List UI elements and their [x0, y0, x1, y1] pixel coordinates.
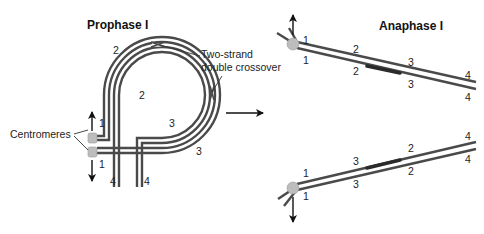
ana-bot-upper-3: 3: [353, 155, 359, 167]
ana-bot-upper-2: 2: [408, 142, 414, 154]
centromeres-leader: [74, 130, 88, 150]
ana-bot-lower-4: 4: [465, 153, 471, 165]
prophase-num-1-bottom: 1: [99, 158, 105, 170]
prophase-num-4-right: 4: [144, 175, 150, 187]
ana-top-upper-1: 1: [303, 34, 309, 46]
ana-top-lower-2: 2: [353, 65, 359, 77]
centromere-top: [287, 38, 299, 50]
ana-top-lower-3: 3: [408, 78, 414, 90]
prophase-num-2-outer: 2: [113, 44, 119, 56]
prophase-num-3-outer: 3: [196, 145, 202, 157]
meiosis-figure: Prophase I Anaphase I Centromeres Two-st…: [0, 0, 484, 234]
prophase-num-3-inner: 3: [169, 117, 175, 129]
centromere-bottom: [287, 182, 299, 194]
crossover-label-line2: double crossover: [201, 61, 281, 73]
ana-bot-lower-1: 1: [303, 190, 309, 202]
ana-bot-upper-4: 4: [465, 130, 471, 142]
centromeres-label: Centromeres: [10, 128, 71, 140]
anaphase-top-chromosome: [277, 15, 476, 89]
prophase-num-2-inner: 2: [139, 89, 145, 101]
ana-bot-upper-1: 1: [303, 167, 309, 179]
prophase-num-1-top: 1: [99, 117, 105, 129]
ana-top-lower-4: 4: [465, 91, 471, 103]
centromere-lower: [88, 147, 97, 157]
ana-bot-lower-3: 3: [353, 178, 359, 190]
anaphase-title: Anaphase I: [379, 19, 443, 33]
crossover-label-line1: Two-strand: [201, 48, 253, 60]
prophase-num-4-left: 4: [110, 175, 116, 187]
ana-top-upper-3: 3: [408, 56, 414, 68]
prophase-title: Prophase I: [87, 18, 148, 32]
ana-top-upper-2: 2: [353, 43, 359, 55]
ana-bot-lower-2: 2: [408, 165, 414, 177]
ana-top-upper-4: 4: [465, 69, 471, 81]
anaphase-bottom-chromosome: [278, 142, 476, 222]
ana-top-lower-1: 1: [303, 54, 309, 66]
prophase-centromeres: [88, 133, 97, 157]
centromere-upper: [88, 133, 97, 143]
